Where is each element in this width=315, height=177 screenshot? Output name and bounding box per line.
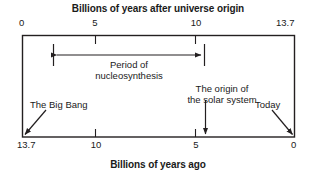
- today-arrow: [272, 110, 293, 135]
- bottom-tick-label-5: 5: [193, 140, 198, 151]
- top-tick-label-0: 0: [19, 18, 24, 29]
- bottom-tick-label-0: 0: [291, 140, 296, 151]
- bottom-axis-title: Billions of years ago: [110, 159, 206, 170]
- solar-system-label-line2: the solar system: [187, 95, 256, 106]
- bottom-tick-label-13-7: 13.7: [17, 140, 36, 151]
- top-tick-label-5: 5: [92, 18, 97, 29]
- timeline-graphics: [0, 0, 315, 177]
- top-tick-label-10: 10: [191, 18, 202, 29]
- today-label: Today: [255, 100, 280, 111]
- top-axis-title: Billions of years after universe origin: [72, 3, 244, 14]
- timeline-figure: Billions of years after universe origin …: [0, 0, 315, 177]
- bottom-tick-label-10: 10: [91, 140, 102, 151]
- nucleosynthesis-label: Period of nucleosynthesis: [95, 60, 163, 81]
- big-bang-label: The Big Bang: [30, 100, 88, 111]
- top-tick-label-13-7: 13.7: [276, 18, 295, 29]
- big-bang-arrow: [25, 110, 46, 135]
- solar-system-label: The origin of the solar system: [187, 84, 256, 105]
- nucleosynthesis-label-line2: nucleosynthesis: [95, 71, 163, 82]
